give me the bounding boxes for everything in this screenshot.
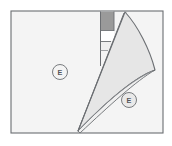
exposed-dark-band [101,12,114,30]
technical-drawing-svg: E E [0,0,172,146]
figure-container: E E [0,0,172,146]
label-left: E [53,65,68,80]
label-right: E [122,93,137,108]
label-left-text: E [58,68,63,77]
exposed-gap [101,30,114,41]
label-right-text: E [127,96,132,105]
